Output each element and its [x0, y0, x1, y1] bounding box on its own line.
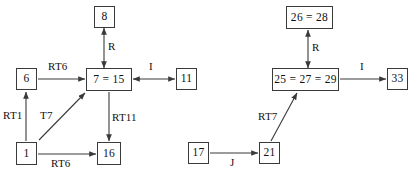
node-label: 6	[23, 73, 29, 85]
edge-label-n25-to-n33: I	[360, 61, 364, 72]
node-label: 7 = 15	[93, 74, 124, 86]
edge-label-n25-to-n26: R	[312, 42, 320, 53]
edge-lines-group	[26, 28, 386, 154]
node-n16[interactable]: 16	[97, 142, 121, 165]
edge-label-n1-to-n16: RT6	[51, 158, 71, 169]
edge-label-n1-to-n6: RT1	[3, 110, 23, 121]
node-n11[interactable]: 11	[176, 68, 197, 90]
edge-label-n7-to-n16: RT11	[112, 112, 137, 123]
node-n1[interactable]: 1	[16, 142, 37, 165]
node-label: 33	[391, 73, 403, 85]
node-n8[interactable]: 8	[94, 6, 115, 28]
node-label: 1	[23, 148, 29, 160]
edge-label-n6-to-n7: RT6	[48, 61, 68, 72]
node-label: 8	[101, 11, 107, 23]
node-n25[interactable]: 25 = 27 = 29	[272, 68, 339, 91]
node-label: 17	[192, 147, 204, 159]
node-n17[interactable]: 17	[188, 142, 209, 164]
diagram-canvas: 867 = 151111626 = 2825 = 27 = 29331721 R…	[0, 0, 414, 171]
node-label: 21	[263, 147, 275, 159]
edge-label-n17-to-n21: J	[230, 157, 234, 168]
node-n33[interactable]: 33	[387, 68, 408, 90]
node-n7[interactable]: 7 = 15	[86, 68, 132, 91]
node-label: 26 = 28	[291, 12, 328, 24]
node-n21[interactable]: 21	[259, 142, 280, 164]
edge-label-n11-to-n7: I	[149, 61, 153, 72]
node-n26[interactable]: 26 = 28	[286, 6, 333, 29]
edge-label-n7-to-n8: R	[108, 41, 116, 52]
node-n6[interactable]: 6	[16, 68, 37, 90]
edge-label-n21-to-n25: RT7	[258, 111, 278, 122]
edge-label-n1-to-n7: T7	[40, 110, 53, 121]
node-label: 11	[181, 73, 193, 85]
node-label: 16	[103, 148, 115, 160]
node-label: 25 = 27 = 29	[274, 74, 337, 86]
